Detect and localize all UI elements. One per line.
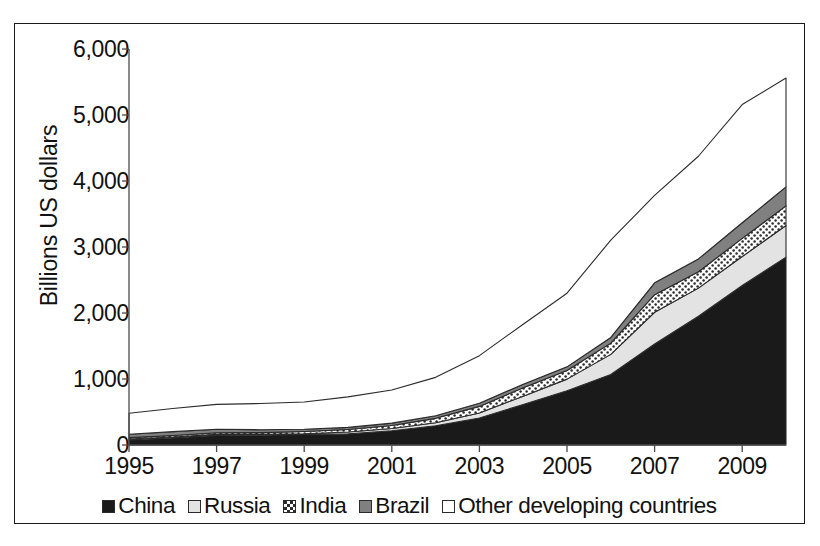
legend-item[interactable]: China xyxy=(102,495,175,518)
legend-item[interactable]: Russia xyxy=(188,495,270,518)
series-areas xyxy=(129,78,786,445)
legend-item[interactable]: Other developing countries xyxy=(442,495,717,518)
medium-gray-swatch xyxy=(359,500,372,513)
plot-area xyxy=(15,24,806,525)
legend-item[interactable]: Brazil xyxy=(359,495,429,518)
light-gray-swatch xyxy=(188,500,201,513)
legend-label: China xyxy=(118,495,175,518)
white-swatch xyxy=(442,500,455,513)
dotted-white-swatch xyxy=(283,500,296,513)
solid-black-swatch xyxy=(102,500,115,513)
chart-legend: ChinaRussiaIndiaBrazilOther developing c… xyxy=(15,495,804,518)
legend-label: Brazil xyxy=(375,495,429,518)
stacked-area-chart: Billions US dollars 01,0002,0003,0004,00… xyxy=(15,24,804,523)
legend-label: Russia xyxy=(204,495,270,518)
figure-border: Billions US dollars 01,0002,0003,0004,00… xyxy=(14,23,805,524)
legend-item[interactable]: India xyxy=(283,495,346,518)
legend-label: India xyxy=(299,495,346,518)
legend-label: Other developing countries xyxy=(458,495,717,518)
